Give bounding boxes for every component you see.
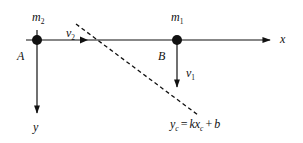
v2-arrow-head [80, 37, 88, 44]
diagram-canvas [0, 0, 303, 143]
point-b-text: B [158, 49, 165, 63]
eq-lhs-subscript: c [175, 124, 178, 133]
point-a-mass-dot [32, 35, 42, 45]
point-b-label: B [158, 50, 165, 62]
eq-kx: kx [189, 117, 200, 131]
mass-m2-subscript: 2 [41, 17, 45, 26]
y-axis-label: y [33, 121, 38, 133]
mass-m1-symbol: m [171, 10, 180, 24]
eq-x-subscript: c [200, 124, 203, 133]
velocity-v1-label: v1 [186, 67, 195, 79]
point-a-text: A [17, 49, 24, 63]
eq-equals: = [179, 117, 190, 131]
mass-m2-symbol: m [32, 10, 41, 24]
y-axis-text: y [33, 120, 38, 134]
velocity-v2-label: v2 [66, 27, 75, 39]
line-equation-label: yc=kxc+b [170, 118, 220, 130]
eq-b: b [214, 117, 220, 131]
mass-m1-subscript: 1 [180, 17, 184, 26]
point-a-label: A [17, 50, 24, 62]
mass-m1-label: m1 [171, 11, 183, 23]
velocity-v1-subscript: 1 [191, 73, 195, 82]
velocity-v2-subscript: 2 [71, 33, 75, 42]
point-b-mass-dot [172, 35, 182, 45]
eq-plus: + [203, 117, 214, 131]
x-axis-label: x [280, 33, 285, 45]
mass-m2-label: m2 [32, 11, 44, 23]
x-axis-text: x [280, 32, 285, 46]
